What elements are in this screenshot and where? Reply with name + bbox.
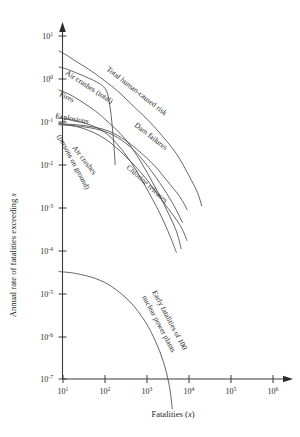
x-tick-exponent: 4 [192, 386, 195, 392]
y-tick-exponent: 1 [50, 31, 53, 37]
x-tick-exponent: 2 [108, 386, 111, 392]
data-curves-group [59, 51, 202, 409]
y-axis-tick-labels: 101 100 10-1 10-2 10-3 10-4 10-5 10-6 10… [40, 31, 53, 384]
y-tick-label: 10-1 [40, 117, 53, 127]
risk-curve-figure: 101 100 10-1 10-2 10-3 10-4 10-5 10-6 10… [0, 0, 300, 437]
y-tick-exponent: -6 [48, 332, 53, 338]
y-tick-label: 10-7 [40, 374, 53, 384]
y-axis-title: Annual rate of fatalities exceeding x [8, 193, 18, 318]
x-axis-title: Fatalities (x) [151, 409, 194, 419]
y-tick-exponent: -2 [48, 160, 53, 166]
x-tick-label: 102 [100, 386, 111, 396]
y-tick-label: 101 [42, 31, 53, 41]
x-tick-label: 103 [142, 386, 153, 396]
x-tick-exponent: 3 [150, 386, 153, 392]
x-tick-label: 101 [58, 386, 69, 396]
y-axis-title-italic: x [8, 193, 18, 198]
x-tick-label: 106 [268, 386, 279, 396]
y-tick-label: 10-3 [40, 203, 53, 213]
y-axis-arrowhead [59, 22, 66, 32]
x-tick-label: 105 [226, 386, 237, 396]
x-tick-exponent: 5 [234, 386, 237, 392]
x-axis-tick-labels: 101 102 103 104 105 106 [58, 386, 279, 396]
x-axis-title-plain: Fatalities ( [151, 409, 188, 419]
y-tick-exponent: -5 [48, 289, 53, 295]
y-tick-label: 10-4 [40, 246, 53, 256]
curve-label-fires: Fires [58, 90, 76, 105]
curve-label-chlorine-releases: Chlorine releases [125, 163, 170, 205]
y-tick-exponent: 0 [50, 74, 53, 80]
y-tick-exponent: -4 [48, 246, 53, 252]
x-axis-title-close: ) [192, 409, 195, 419]
y-tick-label: 100 [42, 74, 53, 84]
x-axis-arrowhead [283, 376, 293, 383]
chart-canvas: 101 100 10-1 10-2 10-3 10-4 10-5 10-6 10… [0, 0, 300, 437]
y-tick-label: 10-6 [40, 332, 53, 342]
y-tick-exponent: -7 [48, 374, 53, 380]
x-tick-exponent: 1 [66, 386, 69, 392]
y-axis-title-plain: Annual rate of fatalities exceeding [8, 197, 18, 318]
curve-label-dam-failures: Dam failures [133, 120, 170, 151]
y-tick-label: 10-2 [40, 160, 53, 170]
x-tick-exponent: 6 [276, 386, 279, 392]
x-tick-label: 104 [184, 386, 195, 396]
y-tick-exponent: -1 [48, 117, 53, 123]
y-tick-label: 10-5 [40, 289, 53, 299]
y-tick-exponent: -3 [48, 203, 53, 209]
